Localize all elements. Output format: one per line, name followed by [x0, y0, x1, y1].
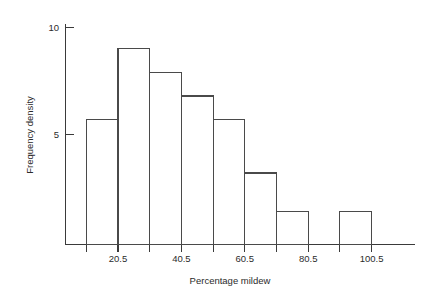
histogram-bars [86, 49, 371, 245]
y-tick-label-5: 5 [54, 129, 59, 140]
x-axis-tick-labels: 20.5 40.5 60.5 80.5 100.5 [109, 253, 384, 264]
histogram-bar [150, 72, 182, 244]
x-tick-label-60-5: 60.5 [236, 253, 255, 264]
plot-area: 10 5 20.5 40.5 60.5 80.5 100.5 Perce [0, 0, 440, 295]
x-tick-label-20-5: 20.5 [109, 253, 128, 264]
x-tick-label-80-5: 80.5 [299, 253, 318, 264]
x-tick-label-100-5: 100.5 [360, 253, 384, 264]
histogram-figure: 10 5 20.5 40.5 60.5 80.5 100.5 Perce [0, 0, 440, 295]
histogram-bar [245, 173, 277, 244]
histogram-bar [181, 96, 213, 245]
histogram-bar [340, 212, 372, 245]
histogram-bar [86, 120, 118, 245]
x-axis-title: Percentage mildew [190, 275, 271, 286]
y-axis-tick-labels: 10 5 [48, 22, 59, 140]
histogram-bar [213, 120, 245, 245]
histogram-bar [277, 212, 309, 245]
y-axis-title: Frequency density [24, 96, 35, 174]
y-axis-ticks [66, 28, 75, 135]
x-tick-label-40-5: 40.5 [172, 253, 191, 264]
histogram-bar [118, 49, 150, 245]
x-axis-ticks [86, 245, 371, 252]
y-tick-label-10: 10 [48, 22, 59, 33]
